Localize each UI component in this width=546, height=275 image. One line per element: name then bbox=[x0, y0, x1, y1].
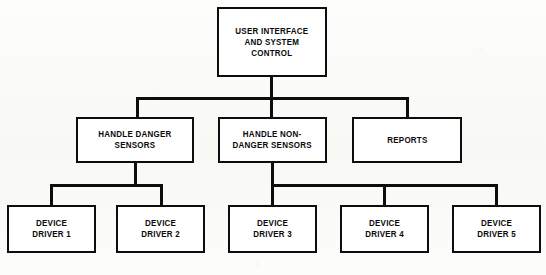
connector-non-danger-stem bbox=[271, 163, 274, 186]
node-label-root: USER INTERFACE AND SYSTEM CONTROL bbox=[236, 26, 309, 59]
node-label-reports: REPORTS bbox=[387, 135, 427, 146]
connector-bus-to-non-danger bbox=[270, 97, 273, 117]
node-label-device-driver-3: DEVICE DRIVER 3 bbox=[253, 218, 292, 240]
node-device-driver-3[interactable]: DEVICE DRIVER 3 bbox=[228, 205, 317, 253]
connector-bus-to-danger bbox=[136, 97, 139, 117]
connector-bus-to-driver-5 bbox=[495, 184, 498, 205]
connector-danger-bus bbox=[50, 184, 162, 187]
node-handle-non-danger-sensors[interactable]: HANDLE NON- DANGER SENSORS bbox=[218, 117, 327, 163]
node-label-device-driver-4: DEVICE DRIVER 4 bbox=[365, 218, 404, 240]
node-device-driver-1[interactable]: DEVICE DRIVER 1 bbox=[7, 205, 96, 253]
connector-root-stem bbox=[270, 77, 273, 99]
connector-bus-to-driver-3 bbox=[271, 184, 274, 205]
node-handle-danger-sensors[interactable]: HANDLE DANGER SENSORS bbox=[76, 117, 194, 163]
connector-bus-to-driver-1 bbox=[50, 184, 53, 205]
node-label-handle-non-danger-sensors: HANDLE NON- DANGER SENSORS bbox=[233, 129, 312, 151]
node-device-driver-2[interactable]: DEVICE DRIVER 2 bbox=[116, 205, 205, 253]
hierarchy-diagram: USER INTERFACE AND SYSTEM CONTROLHANDLE … bbox=[0, 0, 546, 275]
node-label-device-driver-2: DEVICE DRIVER 2 bbox=[141, 218, 180, 240]
connector-danger-stem bbox=[134, 163, 137, 186]
connector-bus-to-reports bbox=[406, 97, 409, 117]
node-label-device-driver-1: DEVICE DRIVER 1 bbox=[32, 218, 71, 240]
node-label-device-driver-5: DEVICE DRIVER 5 bbox=[477, 218, 516, 240]
node-root[interactable]: USER INTERFACE AND SYSTEM CONTROL bbox=[217, 7, 327, 77]
connector-bus-to-driver-4 bbox=[383, 184, 386, 205]
node-device-driver-5[interactable]: DEVICE DRIVER 5 bbox=[452, 205, 541, 253]
node-device-driver-4[interactable]: DEVICE DRIVER 4 bbox=[340, 205, 429, 253]
node-label-handle-danger-sensors: HANDLE DANGER SENSORS bbox=[98, 129, 171, 151]
connector-bus-to-driver-2 bbox=[160, 184, 163, 205]
node-reports[interactable]: REPORTS bbox=[352, 117, 462, 163]
